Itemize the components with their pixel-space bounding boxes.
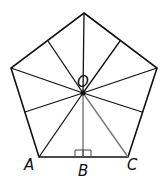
center-point (81, 91, 86, 96)
pentagon-diagram: O A B C (0, 0, 164, 180)
label-c: C (127, 156, 138, 174)
label-a: A (23, 156, 34, 174)
label-b: B (78, 162, 88, 180)
segment-oc (83, 93, 128, 157)
label-o: O (77, 73, 89, 91)
